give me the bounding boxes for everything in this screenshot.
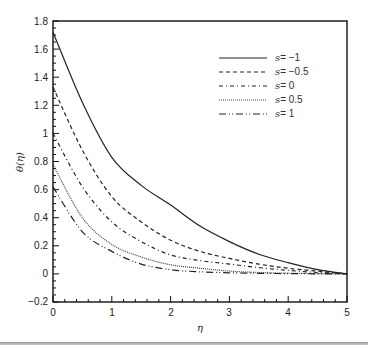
y-tick-label: 0.6 — [34, 184, 48, 195]
x-tick-label: 3 — [226, 307, 232, 318]
y-tick-label: 1.6 — [34, 44, 48, 55]
legend-label: s= 0 — [275, 80, 295, 91]
y-tick-label: −0.2 — [28, 296, 48, 307]
y-axis-title: θ(η) — [14, 152, 25, 172]
legend-item: s= −0.5 — [219, 66, 309, 77]
x-tick-label: 1 — [109, 307, 115, 318]
curve-dash-dot-dot — [53, 187, 347, 274]
plot-frame — [53, 21, 347, 302]
x-tick-label: 5 — [344, 307, 350, 318]
x-tick-label: 2 — [168, 307, 174, 318]
legend-label: s= 0.5 — [275, 94, 303, 105]
legend-item: s= 0.5 — [219, 94, 303, 105]
legend: s= −1 s= −0.5 s= 0 s= 0.5 s= 1 — [219, 52, 309, 119]
x-tick-label: 0 — [50, 307, 56, 318]
y-tick-label: 0 — [42, 268, 48, 279]
legend-item: s= 1 — [219, 108, 295, 119]
x-tick-labels: 0 1 2 3 4 5 — [50, 307, 350, 318]
x-tick-label: 4 — [285, 307, 291, 318]
bottom-divider — [0, 342, 368, 345]
y-tick-label: 0.2 — [34, 240, 48, 251]
legend-label: s= 1 — [275, 108, 295, 119]
x-axis-title: η — [197, 322, 203, 333]
y-tick-label: 0.8 — [34, 156, 48, 167]
axis-ticks — [53, 21, 347, 302]
legend-label: s= −0.5 — [275, 66, 309, 77]
legend-label: s= −1 — [275, 52, 301, 63]
y-tick-label: 1.4 — [34, 72, 48, 83]
curve-dashed — [53, 87, 347, 274]
curve-dotted — [53, 164, 347, 274]
legend-item: s= −1 — [219, 52, 301, 63]
y-tick-label: 1.2 — [34, 100, 48, 111]
y-tick-label: 0.4 — [34, 212, 48, 223]
curve-dash-dot — [53, 133, 347, 274]
line-chart: 0 1 2 3 4 5 −0.2 0 0.2 0.4 0.6 0.8 1 1.2… — [0, 0, 368, 348]
legend-item: s= 0 — [219, 80, 295, 91]
y-tick-label: 1 — [42, 128, 48, 139]
y-tick-label: 1.8 — [34, 16, 48, 27]
y-tick-labels: −0.2 0 0.2 0.4 0.6 0.8 1 1.2 1.4 1.6 1.8 — [28, 16, 48, 307]
